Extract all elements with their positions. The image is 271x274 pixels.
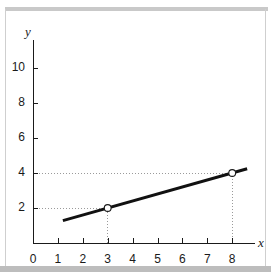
x-tick-label-1: 1 [48,252,68,266]
x-tick-label-2: 2 [73,252,93,266]
y-tick-label-8: 8 [1,95,25,109]
y-tick-label-2: 2 [1,200,25,214]
y-tick-label-4: 4 [1,165,25,179]
figure-canvas: y x 012345678 246810 [0,0,271,274]
x-tick-label-4: 4 [123,252,143,266]
data-point-marker-point-2 [229,170,236,177]
data-line-group [63,169,247,221]
x-tick-label-7: 7 [197,252,217,266]
x-tick-label-5: 5 [148,252,168,266]
axes-group [33,40,255,244]
x-tick-label-0: 0 [23,252,43,266]
x-tick-label-3: 3 [98,252,118,266]
y-tick-label-10: 10 [1,60,25,74]
x-axis-label: x [258,235,264,251]
guide-lines-group [33,173,232,243]
y-axis-label: y [25,24,31,40]
line-chart-plot [0,0,271,274]
data-line-line [63,169,247,221]
data-point-marker-point-1 [104,205,111,212]
y-tick-label-6: 6 [1,130,25,144]
x-tick-label-6: 6 [172,252,192,266]
x-tick-label-8: 8 [222,252,242,266]
tick-marks-group [33,69,233,244]
